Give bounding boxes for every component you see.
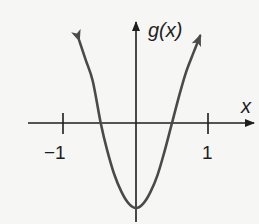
x-tick-label-1: 1 [202,143,213,162]
plot-area [0,0,259,224]
x-tick-label-neg1: −1 [44,143,66,162]
y-axis-label: g(x) [148,20,182,40]
function-graph: g(x) x −1 1 [0,0,259,224]
x-axis-label: x [241,96,251,116]
curve-g [79,36,200,208]
